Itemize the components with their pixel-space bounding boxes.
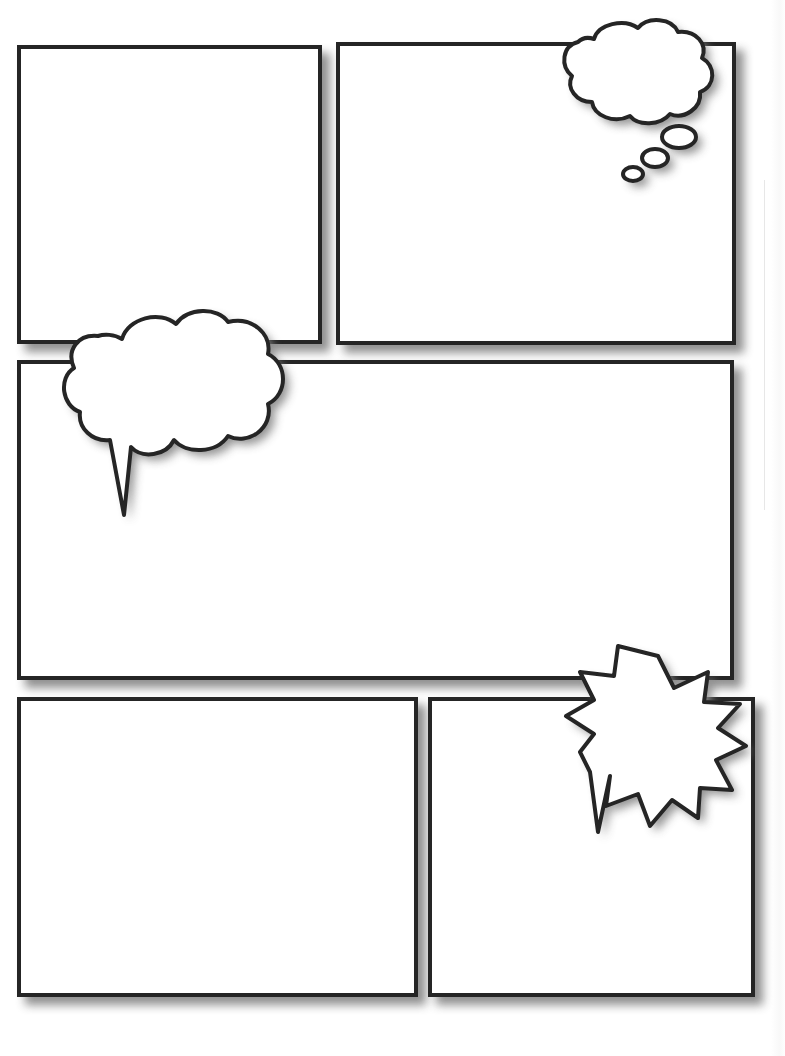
paper-edge-gradient: [771, 0, 785, 1056]
thought-tail-dot-medium: [642, 149, 668, 167]
scan-artifact-line: [764, 180, 765, 510]
thought-tail-dot-small: [623, 167, 643, 181]
comic-panel-1[interactable]: [17, 45, 322, 344]
comic-page: [0, 0, 785, 1056]
comic-panel-4[interactable]: [17, 697, 418, 997]
thought-tail-dot-large: [662, 126, 696, 148]
